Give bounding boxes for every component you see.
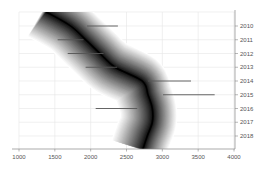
y-tick-label: 2012 [240,51,254,57]
x-tick-label: 2000 [84,154,98,160]
y-tick-label: 2014 [240,78,254,84]
density-band [42,12,153,149]
y-tick-label: 2015 [240,92,254,98]
y-tick-label: 2010 [240,23,254,29]
x-tick-label: 2500 [120,154,134,160]
y-tick-label: 2016 [240,106,254,112]
y-tick-label: 2013 [240,64,254,70]
y-axis-labels: 201020112012201320142015201620172018 [240,23,254,139]
x-tick-label: 1000 [12,154,26,160]
band-layers [42,12,153,149]
y-tick-label: 2017 [240,119,254,125]
x-tick-label: 3500 [191,154,205,160]
x-tick-label: 1500 [48,154,62,160]
x-tick-label: 4000 [227,154,241,160]
chart: 1000150020002500300035004000 20102011201… [0,0,266,170]
x-axis-labels: 1000150020002500300035004000 [12,154,241,160]
y-tick-label: 2018 [240,133,254,139]
x-tick-label: 3000 [156,154,170,160]
y-tick-label: 2011 [240,37,254,43]
